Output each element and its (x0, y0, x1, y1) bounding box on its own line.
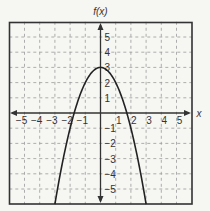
x-axis-right-arrow-icon (184, 110, 191, 116)
x-tick-label: 5 (177, 115, 183, 126)
x-tick-label: −3 (46, 115, 58, 126)
x-tick-label: −5 (16, 115, 28, 126)
y-tick-label: −1 (105, 123, 117, 134)
x-tick-label: 3 (146, 115, 152, 126)
y-axis-down-arrow-icon (98, 196, 104, 203)
y-tick-label: 2 (105, 78, 111, 89)
y-axis-title: f(x) (93, 6, 107, 17)
x-tick-label: 4 (162, 115, 168, 126)
x-axis-title: x (196, 108, 203, 119)
graph: −5−4−3−2−11234554321−1−2−3−4−5 f(x) x (0, 0, 210, 211)
y-tick-label: 1 (105, 93, 111, 104)
x-tick-label: −1 (77, 115, 89, 126)
axes (10, 23, 191, 203)
y-tick-label: −5 (105, 184, 117, 195)
y-tick-label: −3 (105, 154, 117, 165)
x-tick-label: 2 (131, 115, 137, 126)
y-tick-label: 4 (105, 47, 111, 58)
y-tick-label: −2 (105, 138, 117, 149)
y-tick-label: 5 (105, 32, 111, 43)
y-axis-up-arrow-icon (98, 23, 104, 30)
y-tick-label: −4 (105, 169, 117, 180)
x-tick-label: −4 (31, 115, 43, 126)
x-tick-label: 1 (116, 115, 122, 126)
